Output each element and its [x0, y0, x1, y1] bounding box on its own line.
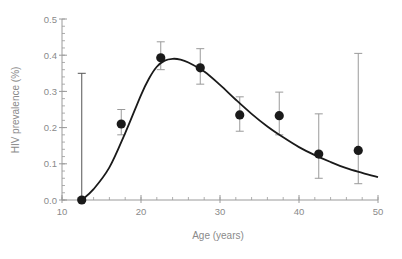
y-axis: 0.00.10.20.30.40.5 — [44, 14, 67, 206]
data-point — [314, 149, 323, 158]
x-tick-label: 40 — [294, 206, 305, 217]
x-axis-title: Age (years) — [192, 230, 244, 241]
x-tick-label: 20 — [136, 206, 147, 217]
y-tick-label: 0.5 — [44, 14, 57, 25]
x-tick-label: 50 — [373, 206, 384, 217]
data-point — [275, 111, 284, 120]
y-tick-label: 0.1 — [44, 158, 57, 169]
data-point — [354, 146, 363, 155]
y-axis-title: HIV prevalence (%) — [10, 67, 21, 154]
y-tick-label: 0.2 — [44, 122, 57, 133]
data-point — [196, 63, 205, 72]
x-tick-label: 30 — [215, 206, 226, 217]
x-tick-label: 10 — [57, 206, 68, 217]
fitted-curve — [82, 59, 378, 200]
y-tick-label: 0.4 — [44, 50, 57, 61]
x-axis: 1020304050 — [57, 195, 384, 217]
data-points — [77, 53, 363, 204]
hiv-prevalence-chart: 0.00.10.20.30.40.5 1020304050 HIV preval… — [0, 0, 402, 259]
y-tick-label: 0.3 — [44, 86, 57, 97]
data-point — [235, 110, 244, 119]
data-point — [77, 195, 86, 204]
data-point — [156, 53, 165, 62]
data-point — [117, 119, 126, 128]
y-tick-label: 0.0 — [44, 195, 57, 206]
